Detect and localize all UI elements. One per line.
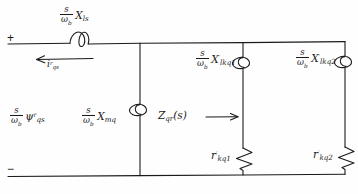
flux-source-numerator: s xyxy=(10,106,23,115)
flux-source-label: s ωb ψrqs xyxy=(10,106,45,127)
magnetizing-fraction: s ωb xyxy=(82,106,95,127)
magnetizing-symbol: Xmq xyxy=(97,111,116,123)
magnetizing-reactance-label: s ωb Xmq xyxy=(82,106,116,127)
magnetizing-inductor-coil xyxy=(129,104,146,116)
series-inductor-label: s ωb Xls xyxy=(60,5,89,26)
damper2-resistance-label: r′kq2 xyxy=(313,149,333,161)
damper2-denominator: ωb xyxy=(296,58,309,69)
damper2-numerator: s xyxy=(296,48,309,57)
impedance-label: Zqr(s) xyxy=(158,110,187,122)
current-arrow-shaft xyxy=(37,59,94,60)
damper1-denominator: ωb xyxy=(196,59,209,70)
damper1-reactance-label: s ωb X′lkq1 xyxy=(196,49,236,70)
current-arrow-label: irqs xyxy=(47,60,59,70)
positive-terminal-label: + xyxy=(7,32,14,44)
negative-terminal-label: − xyxy=(7,163,14,175)
flux-source-denominator: ωb xyxy=(10,116,23,127)
wire-top-right xyxy=(88,42,345,44)
damper2-resistor-zigzag xyxy=(339,147,355,174)
damper2-fraction: s ωb xyxy=(296,48,309,69)
damper2-reactance-label: s ωb X′lkq2 xyxy=(296,48,336,69)
magnetizing-numerator: s xyxy=(82,106,95,115)
circuit-diagram-canvas: + − s ωb Xls irqs s ωb ψrqs s ωb Xmq Zqr… xyxy=(0,0,358,194)
circuit-schematic xyxy=(0,0,358,194)
series-inductor-denominator: ωb xyxy=(60,15,73,26)
series-inductor-coil xyxy=(70,32,89,46)
damper1-resistance-label: r′kq1 xyxy=(211,150,231,162)
damper2-inductor-coil xyxy=(334,56,351,68)
series-inductor-symbol: Xls xyxy=(75,10,88,22)
magnetizing-denominator: ωb xyxy=(82,116,95,127)
wire-bottom-rail xyxy=(8,174,345,176)
damper1-numerator: s xyxy=(196,49,209,58)
damper1-resistor-zigzag xyxy=(237,148,253,175)
series-inductor-numerator: s xyxy=(60,5,73,14)
damper2-symbol: X′lkq2 xyxy=(311,53,336,65)
series-inductor-fraction: s ωb xyxy=(60,5,73,26)
flux-source-fraction: s ωb xyxy=(10,106,23,127)
damper1-symbol: X′lkq1 xyxy=(211,54,236,66)
wire-top-left xyxy=(8,43,70,44)
flux-source-symbol: ψrqs xyxy=(25,111,44,123)
damper1-fraction: s ωb xyxy=(196,49,209,70)
